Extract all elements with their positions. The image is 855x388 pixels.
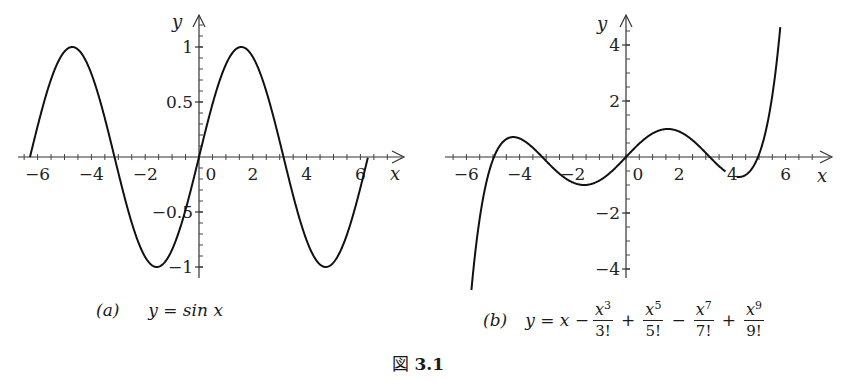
x-tick-label: −4 — [507, 164, 532, 184]
figure-number: 3.1 — [414, 354, 444, 374]
plot-b-taylor: −6−4−20246 42−2−4 y x — [0, 0, 855, 290]
x-tick-label: −2 — [560, 164, 585, 184]
caption-b: (b) y = x − x3 3! + x5 5! − x7 7! + x9 9… — [483, 300, 768, 339]
y-tick-label: −2 — [595, 203, 620, 223]
x-tick-label: 2 — [674, 164, 685, 184]
x-tick-label: 0 — [633, 164, 644, 184]
caption-b-lhs: y = x − — [525, 310, 589, 330]
operator: + — [722, 310, 736, 330]
caption-a-letter: (a) — [96, 300, 119, 320]
term-4: x9 9! — [744, 300, 764, 339]
y-axis-label: y — [596, 13, 608, 34]
y-axis: 42−2−4 — [595, 15, 632, 279]
term-3: x7 7! — [694, 300, 714, 339]
taylor-curve — [469, 27, 780, 290]
y-tick-label: −4 — [595, 259, 620, 279]
operator: + — [621, 310, 635, 330]
x-axis-label: x — [817, 165, 827, 186]
figure-label: 図 3.1 — [392, 350, 444, 375]
x-tick-label: 4 — [727, 164, 738, 184]
caption-b-letter: (b) — [483, 310, 507, 330]
figure-prefix: 図 — [392, 354, 409, 374]
y-tick-label: 2 — [609, 91, 620, 111]
caption-a-equation: y = sin x — [148, 300, 223, 320]
caption-a: (a) y = sin x — [96, 300, 223, 320]
term-2: x5 5! — [643, 300, 663, 339]
x-tick-label: 6 — [780, 164, 791, 184]
y-tick-label: 4 — [609, 35, 620, 55]
x-tick-label: −6 — [454, 164, 479, 184]
x-axis: −6−4−20246 — [445, 151, 832, 184]
operator: − — [671, 310, 685, 330]
term-1: x3 3! — [593, 300, 613, 339]
